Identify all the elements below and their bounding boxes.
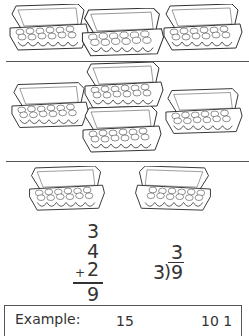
egg-carton-illustration [162, 4, 244, 54]
addend-3: 2 [87, 260, 99, 279]
egg-carton-illustration [22, 166, 112, 214]
dividend: 9 [171, 263, 183, 282]
addend-1: 3 [87, 222, 99, 241]
sum: 9 [87, 285, 99, 304]
example-value-2: 10 1 [201, 313, 232, 329]
three-cartons-row [0, 2, 249, 60]
egg-carton-illustration [128, 166, 218, 214]
egg-carton-illustration [164, 88, 244, 138]
egg-carton-illustration [78, 8, 168, 60]
four-cartons-row [0, 62, 249, 160]
egg-carton-illustration [78, 62, 170, 112]
example-label: Example: [15, 311, 80, 327]
division-bracket: ) [164, 262, 171, 281]
two-cartons-row [0, 164, 249, 214]
plus-operator: + [75, 264, 85, 283]
quotient: 3 [171, 243, 183, 262]
example-value-1: 15 [116, 313, 134, 329]
example-box: Example: 15 10 1 [4, 305, 242, 336]
egg-carton-illustration [76, 106, 168, 156]
section-divider [6, 161, 249, 162]
